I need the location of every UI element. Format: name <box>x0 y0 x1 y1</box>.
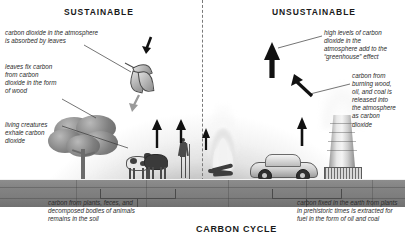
cow-leg-5 <box>148 167 150 179</box>
cattle-group <box>126 148 168 181</box>
tower-band-1 <box>330 123 354 124</box>
soil-line-top <box>0 187 405 188</box>
leaf-cluster <box>118 60 164 104</box>
car-wheel-hub-rear <box>300 173 305 178</box>
car-cabin <box>265 154 301 167</box>
cow-leg-8 <box>164 167 166 179</box>
annotation-co2-absorbed: carbon dioxide in the atmosphere is abso… <box>5 29 123 45</box>
annotation-leaves-fix-carbon: leaves fix carbon from carbon dioxide in… <box>5 63 87 95</box>
annotation-living-creatures: living creatures exhale carbon dioxide <box>5 121 71 145</box>
annotation-soil-carbon: carbon from plants, feces, and decompose… <box>48 199 180 223</box>
fire-log-3 <box>213 171 233 176</box>
automobile <box>250 152 318 182</box>
heading-sustainable: SUSTAINABLE <box>64 7 134 17</box>
annotation-fossil-fuel: carbon fixed in the earth from plants in… <box>297 199 405 223</box>
farmer-leg-left <box>181 156 183 178</box>
heading-unsustainable: UNSUSTAINABLE <box>272 7 356 17</box>
cow-leg-1 <box>129 168 131 179</box>
car-wheel-hub-front <box>262 173 267 178</box>
cow-leg-7 <box>160 167 162 179</box>
cow-leg-2 <box>133 168 135 179</box>
farmer-staff <box>189 144 190 179</box>
farmer-figure <box>176 138 192 181</box>
soil-tick-3 <box>228 180 229 207</box>
annotation-burning-fuel: carbon from burning wood, oil, and coal … <box>352 72 405 129</box>
soil-carbon-bracket <box>100 189 176 199</box>
campfire <box>204 108 244 180</box>
tower-band-3 <box>328 141 356 142</box>
carbon-cycle-diagram: SUSTAINABLE UNSUSTAINABLE carbon dioxide… <box>0 0 405 235</box>
diagram-title: CARBON CYCLE <box>196 224 277 234</box>
cow-leg-6 <box>152 167 154 179</box>
fossil-fuel-bracket <box>272 189 342 199</box>
annotation-high-co2-levels: high levels of carbon dioxide in the atm… <box>324 29 404 61</box>
tower-band-4 <box>327 150 357 151</box>
tower-band-2 <box>329 132 355 133</box>
sustainable-unsustainable-divider <box>202 0 203 186</box>
cow-patch-1 <box>130 158 137 164</box>
cow-leg-3 <box>142 168 144 179</box>
farmer-leg-right <box>185 156 187 178</box>
